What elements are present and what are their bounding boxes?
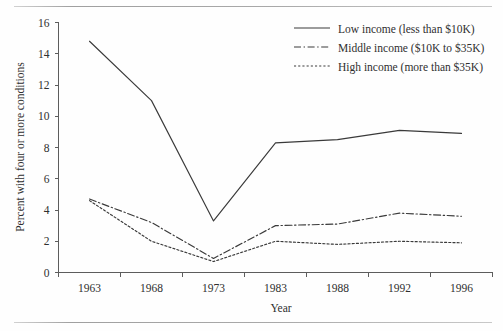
series-line-dash-dot	[90, 199, 462, 258]
x-tick-label: 1963	[78, 282, 101, 294]
legend-label: High income (more than $35K)	[338, 61, 483, 74]
x-tick-label: 1968	[140, 282, 163, 294]
y-tick-label: 14	[38, 48, 50, 60]
line-chart: 0246810121416 19631968197319831988199219…	[0, 0, 503, 331]
y-axis-tick-labels: 0246810121416	[38, 17, 50, 279]
y-tick-label: 6	[44, 173, 50, 185]
y-axis-ticks	[55, 23, 59, 273]
legend-label: Middle income ($10K to $35K)	[338, 42, 484, 55]
y-tick-label: 10	[38, 110, 50, 122]
x-tick-label: 1992	[388, 282, 411, 294]
y-axis-title: Percent with four or more conditions	[14, 62, 26, 232]
legend-label: Low income (less than $10K)	[338, 23, 475, 36]
figure-page: 0246810121416 19631968197319831988199219…	[0, 0, 503, 331]
x-tick-label: 1983	[264, 282, 287, 294]
y-tick-label: 16	[38, 17, 50, 29]
y-tick-label: 0	[44, 267, 50, 279]
x-axis-ticks	[59, 273, 493, 277]
x-axis-tick-labels: 1963196819731983198819921996	[78, 282, 473, 294]
series-line-dotted	[90, 201, 462, 262]
x-tick-label: 1973	[202, 282, 225, 294]
y-tick-label: 8	[44, 142, 50, 154]
y-tick-label: 2	[44, 235, 50, 247]
x-axis-title: Year	[270, 302, 291, 314]
x-tick-label: 1988	[326, 282, 349, 294]
y-tick-label: 4	[44, 204, 50, 216]
y-tick-label: 12	[38, 79, 50, 91]
chart-legend: Low income (less than $10K)Middle income…	[294, 23, 484, 74]
series-group	[90, 41, 462, 261]
x-tick-label: 1996	[450, 282, 473, 294]
